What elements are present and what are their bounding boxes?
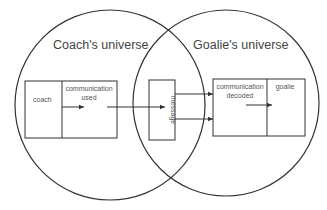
communication-used-label-2: used	[81, 94, 96, 101]
coach-universe-title: Coach's universe	[53, 38, 149, 52]
goalie-universe-title: Goalie's universe	[193, 38, 289, 52]
communication-decoded-label-1: communication	[216, 83, 263, 90]
goalie-label: goalie	[276, 83, 295, 91]
coach-label: coach	[33, 96, 52, 103]
message-label: message	[169, 96, 177, 125]
communication-decoded-label-2: decoded	[227, 92, 254, 99]
communication-used-label-1: communication	[65, 85, 112, 92]
communication-venn-diagram: Coach's universe Goalie's universe coach…	[0, 0, 327, 210]
